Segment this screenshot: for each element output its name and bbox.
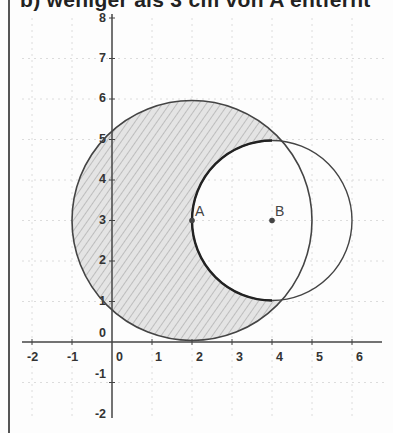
point-a: [189, 218, 195, 224]
svg-text:0: 0: [116, 350, 123, 364]
svg-text:-1: -1: [95, 367, 106, 381]
svg-text:8: 8: [99, 11, 106, 25]
coordinate-diagram: -2 -1 0 1 2 3 4 5 6 8 7 6 5 4 3 2 1 0 -1…: [0, 0, 393, 433]
svg-text:3: 3: [99, 213, 106, 227]
svg-text:7: 7: [99, 51, 106, 65]
svg-text:-1: -1: [67, 350, 78, 364]
x-tick-labels: -2 -1 0 1 2 3 4 5 6: [27, 350, 363, 364]
point-b-label: B: [275, 203, 284, 219]
svg-text:6: 6: [99, 91, 106, 105]
svg-text:0: 0: [99, 326, 106, 340]
point-a-label: A: [195, 203, 205, 219]
svg-text:-2: -2: [95, 407, 106, 421]
point-b: [269, 218, 275, 224]
svg-text:4: 4: [276, 350, 283, 364]
svg-text:4: 4: [99, 172, 106, 186]
svg-text:-2: -2: [27, 350, 38, 364]
svg-text:2: 2: [99, 253, 106, 267]
svg-text:1: 1: [155, 350, 162, 364]
svg-text:5: 5: [316, 350, 323, 364]
svg-text:2: 2: [196, 350, 203, 364]
svg-text:6: 6: [356, 350, 363, 364]
svg-text:3: 3: [236, 350, 243, 364]
worksheet-page: b) weniger als 3 cm von A entfernt: [0, 0, 393, 433]
